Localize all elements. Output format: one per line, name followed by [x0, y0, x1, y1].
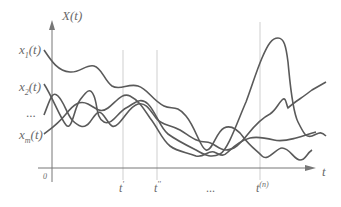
series-label-ellipsis: ... [26, 106, 36, 119]
diagram-canvas [0, 0, 341, 207]
curve-x1 [44, 50, 312, 160]
origin-label-text: 0 [43, 172, 47, 181]
ellipsis-text: ... [26, 105, 36, 120]
tick-label-t1: t' [119, 181, 124, 194]
curve-x2 [44, 38, 326, 156]
series-label-suffix: (t) [29, 42, 41, 57]
x-axis-arrow-icon [305, 165, 316, 171]
series-label-x1: x1(t) [19, 43, 41, 60]
y-axis-label-text: X(t) [62, 8, 82, 23]
tick-label-sup: '' [157, 180, 160, 189]
x-axis-label-text: t [322, 164, 326, 179]
tick-label-ellipsis: ... [206, 182, 215, 194]
tick-label-t2: t'' [154, 181, 161, 194]
tick-label-tn: t(n) [256, 181, 269, 194]
series-label-suffix: (t) [29, 79, 41, 94]
series-label-xm: xm(t) [19, 128, 43, 145]
tick-label-text: ... [206, 181, 215, 195]
origin-label: 0 [43, 173, 47, 181]
series-label-x2: x2(t) [19, 80, 41, 97]
series-label-suffix: (t) [31, 127, 43, 142]
y-axis-arrow-icon [49, 20, 55, 30]
tick-label-sup: ' [122, 180, 124, 189]
y-axis-label: X(t) [62, 9, 82, 22]
x-axis-label: t [322, 165, 326, 178]
random-process-diagram: X(t) x1(t) x2(t) ... xm(t) 0 t t' t'' ..… [0, 0, 341, 207]
tick-label-sup: (n) [259, 180, 268, 189]
